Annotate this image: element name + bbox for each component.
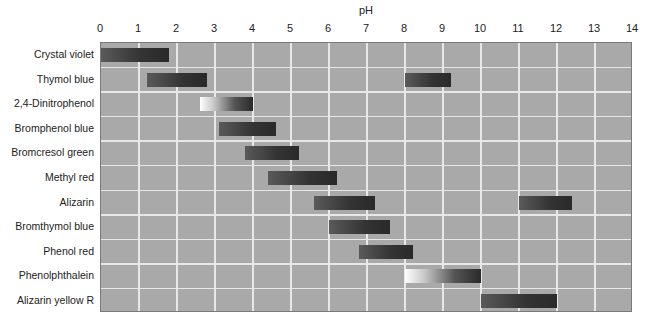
- category-label: Methyl red: [45, 170, 94, 184]
- plot-area: [100, 42, 632, 312]
- range-bar: [481, 294, 557, 308]
- vertical-gridline: [594, 43, 596, 311]
- category-label: Alizarin: [60, 195, 94, 209]
- category-label: Alizarin yellow R: [17, 293, 94, 307]
- horizontal-gridline: [101, 91, 631, 93]
- x-tick-label: 3: [211, 22, 217, 34]
- horizontal-gridline: [101, 67, 631, 69]
- x-tick-label: 7: [363, 22, 369, 34]
- range-bar: [519, 196, 572, 210]
- range-bar: [101, 48, 169, 62]
- vertical-gridline: [214, 43, 216, 311]
- horizontal-gridline: [101, 214, 631, 216]
- range-bar: [405, 269, 481, 283]
- horizontal-gridline: [101, 288, 631, 290]
- category-label: Phenol red: [43, 244, 94, 258]
- category-label: Crystal violet: [34, 47, 94, 61]
- horizontal-gridline: [101, 140, 631, 142]
- category-label: 2,4-Dinitrophenol: [14, 96, 94, 110]
- range-bar: [147, 73, 208, 87]
- x-tick-label: 4: [249, 22, 255, 34]
- category-label: Thymol blue: [37, 72, 94, 86]
- category-label: Bromcresol green: [11, 145, 94, 159]
- x-axis-label: pH: [100, 4, 632, 16]
- range-bar: [200, 97, 253, 111]
- vertical-gridline: [366, 43, 368, 311]
- x-tick-label: 6: [325, 22, 331, 34]
- category-label: Bromthymol blue: [15, 219, 94, 233]
- range-bar: [314, 196, 375, 210]
- vertical-gridline: [252, 43, 254, 311]
- x-tick-label: 0: [97, 22, 103, 34]
- x-tick-label: 13: [588, 22, 600, 34]
- vertical-gridline: [518, 43, 520, 311]
- x-tick-label: 1: [135, 22, 141, 34]
- x-tick-label: 2: [173, 22, 179, 34]
- x-tick-label: 5: [287, 22, 293, 34]
- x-axis-ticks: 01234567891011121314: [100, 22, 632, 36]
- x-tick-label: 9: [439, 22, 445, 34]
- category-label: Bromphenol blue: [15, 121, 94, 135]
- horizontal-gridline: [101, 165, 631, 167]
- horizontal-gridline: [101, 239, 631, 241]
- x-tick-label: 8: [401, 22, 407, 34]
- range-bar: [245, 146, 298, 160]
- range-bar: [405, 73, 451, 87]
- category-label: Phenolphthalein: [19, 268, 94, 282]
- range-bar: [329, 220, 390, 234]
- range-bar: [268, 171, 336, 185]
- range-bar: [219, 122, 276, 136]
- x-tick-label: 12: [550, 22, 562, 34]
- vertical-gridline: [138, 43, 140, 311]
- horizontal-gridline: [101, 190, 631, 192]
- x-tick-label: 11: [512, 22, 523, 34]
- x-tick-label: 14: [626, 22, 638, 34]
- vertical-gridline: [556, 43, 558, 311]
- range-bar: [359, 245, 412, 259]
- horizontal-gridline: [101, 263, 631, 265]
- horizontal-gridline: [101, 116, 631, 118]
- x-tick-label: 10: [474, 22, 486, 34]
